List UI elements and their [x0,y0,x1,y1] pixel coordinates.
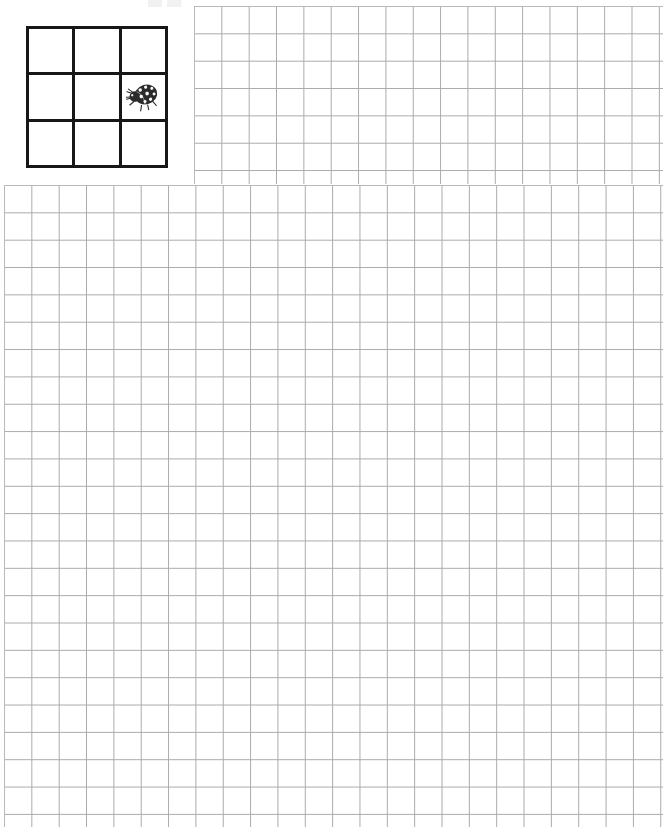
bug-grid-cell-r3c1[interactable] [29,122,75,168]
bug-grid-cell-r2c1[interactable] [29,75,75,121]
ladybug-icon [123,78,164,116]
bug-grid-cell-r1c3[interactable] [122,29,168,75]
bug-grid-cell-r2c3[interactable] [122,75,168,121]
bug-grid-cell-r3c3[interactable] [122,122,168,168]
graph-grid-main [4,185,663,827]
worksheet-page [0,0,672,833]
bug-grid-cell-r1c2[interactable] [75,29,121,75]
bug-grid-cell-r3c2[interactable] [75,122,121,168]
scan-artifact [148,0,184,7]
ladybug-3x3-grid[interactable] [26,26,168,168]
bug-grid-cell-r1c1[interactable] [29,29,75,75]
bug-grid-cell-r2c2[interactable] [75,75,121,121]
